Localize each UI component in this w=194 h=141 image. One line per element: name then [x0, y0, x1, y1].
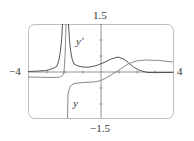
curve-label-yprime: y′ — [76, 36, 83, 47]
chart-canvas — [0, 0, 194, 141]
x-max-label: 4 — [177, 66, 183, 77]
y-max-label: 1.5 — [93, 10, 107, 21]
series-yprime — [28, 24, 173, 73]
curve-label-y: y — [73, 98, 78, 109]
x-min-label: −4 — [9, 66, 21, 77]
y-min-label: −1.5 — [90, 123, 110, 134]
